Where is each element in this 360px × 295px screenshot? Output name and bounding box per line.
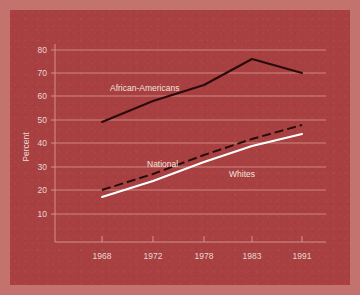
series-label-african-americans: African-Americans	[110, 83, 179, 93]
y-tick-label-50: 50	[38, 115, 48, 125]
y-tick-label-40: 40	[38, 138, 48, 148]
series-line-national	[102, 125, 302, 190]
y-tick-label-30: 30	[38, 162, 48, 172]
x-tick-labels: 1968 1972 1978 1983 1991	[93, 251, 312, 261]
x-tick-label-1972: 1972	[144, 251, 163, 261]
x-tick-label-1983: 1983	[243, 251, 262, 261]
y-tick-label-80: 80	[38, 45, 48, 55]
line-chart: 80 70 60 50 40 30 20 10 Percent	[10, 10, 350, 285]
y-tick-labels: 80 70 60 50 40 30 20 10	[38, 45, 48, 219]
x-axis	[55, 236, 326, 242]
x-tick-label-1991: 1991	[293, 251, 312, 261]
y-tick-label-70: 70	[38, 68, 48, 78]
y-tick-label-10: 10	[38, 209, 48, 219]
y-tick-label-20: 20	[38, 185, 48, 195]
y-axis-title: Percent	[21, 132, 31, 162]
series-label-national: National	[147, 159, 178, 169]
y-tick-label-60: 60	[38, 91, 48, 101]
x-tick-label-1978: 1978	[195, 251, 214, 261]
chart-panel: 80 70 60 50 40 30 20 10 Percent	[10, 10, 350, 285]
series-label-whites: Whites	[229, 169, 255, 179]
gridlines	[55, 50, 326, 214]
y-axis	[51, 44, 55, 242]
series-annotations: African-Americans National Whites	[110, 83, 255, 179]
chart-screenshot: 80 70 60 50 40 30 20 10 Percent	[0, 0, 360, 295]
x-tick-label-1968: 1968	[93, 251, 112, 261]
series-lines	[102, 59, 302, 197]
series-line-whites	[102, 134, 302, 197]
